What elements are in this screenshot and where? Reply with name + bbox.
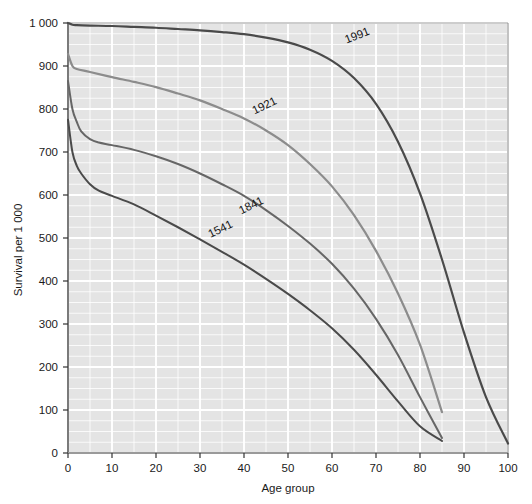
x-tick-label: 0 xyxy=(65,462,71,474)
y-tick-label: 500 xyxy=(39,232,58,244)
x-tick-label: 100 xyxy=(498,462,517,474)
y-tick-label: 400 xyxy=(39,275,58,287)
y-tick-label: 600 xyxy=(39,189,58,201)
x-tick-label: 50 xyxy=(282,462,295,474)
y-axis-title: Survival per 1 000 xyxy=(12,204,24,297)
x-tick-label: 40 xyxy=(238,462,251,474)
y-tick-label: 800 xyxy=(39,103,58,115)
survival-chart: 01002003004005006007008009001 000 010203… xyxy=(0,0,532,504)
x-tick-label: 60 xyxy=(326,462,339,474)
y-tick-label: 900 xyxy=(39,60,58,72)
x-tick-label: 10 xyxy=(106,462,119,474)
y-tick-label: 700 xyxy=(39,146,58,158)
y-tick-label: 0 xyxy=(52,447,58,459)
x-tick-label: 80 xyxy=(414,462,427,474)
y-tick-label: 100 xyxy=(39,404,58,416)
x-tick-label: 30 xyxy=(194,462,207,474)
x-tick-label: 20 xyxy=(150,462,163,474)
survival-curve-figure: 01002003004005006007008009001 000 010203… xyxy=(0,0,532,504)
x-axis-title: Age group xyxy=(261,482,314,494)
y-tick-label: 300 xyxy=(39,318,58,330)
y-tick-label: 1 000 xyxy=(29,17,58,29)
x-tick-label: 70 xyxy=(370,462,383,474)
x-tick-label: 90 xyxy=(458,462,471,474)
y-tick-label: 200 xyxy=(39,361,58,373)
